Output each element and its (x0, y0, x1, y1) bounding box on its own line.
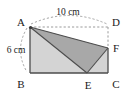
vertex-label-F: F (113, 42, 119, 54)
vertex-dot-A (29, 26, 32, 29)
geometry-diagram-svg: A B C D E F 10 cm 6 cm (0, 0, 128, 97)
vertex-label-C: C (112, 78, 119, 90)
vertex-label-A: A (17, 16, 25, 28)
vertex-label-D: D (112, 16, 120, 28)
vertex-label-B: B (17, 78, 24, 90)
dimension-label-width: 10 cm (56, 7, 80, 17)
dimension-label-height: 6 cm (7, 45, 26, 55)
geometry-figure: A B C D E F 10 cm 6 cm (0, 0, 128, 97)
vertex-label-E: E (85, 79, 92, 91)
